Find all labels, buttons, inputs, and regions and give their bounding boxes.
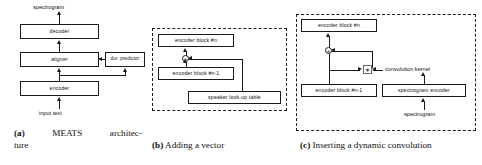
panel-c-edge-specenc-to-kernel: [424, 75, 425, 84]
node-dur-predictor-label: dur. predictor: [111, 57, 140, 62]
panel-b-edge-speaker-to-add: [189, 59, 242, 60]
panel-a-output-label: spectrogram: [33, 5, 64, 11]
panel-c-edge-block-n1-to-conv: [329, 70, 360, 71]
panel-a-edge-decoder-to-output: [59, 14, 60, 24]
node-dur-predictor: dur. predictor: [105, 52, 145, 67]
caption-panel-b-text: Adding a vector: [165, 140, 224, 150]
arrow-up-icon: [123, 68, 127, 72]
caption-panel-a-word3: ture: [14, 140, 28, 150]
arrow-right-icon: [358, 67, 362, 71]
arrow-up-icon: [421, 98, 425, 102]
node-encoder: encoder: [20, 81, 99, 96]
figure-root: spectrogram decoder aligner dur. predict…: [0, 0, 482, 165]
arrow-left-icon: [372, 67, 376, 71]
node-spectrogram-encoder: spectrogram encoder: [382, 84, 466, 97]
panel-a-input-label: input text: [39, 111, 62, 117]
node-encoder-block-n-minus-1: encoder block #n-1: [158, 67, 234, 80]
arrow-up-icon: [57, 40, 61, 44]
caption-panel-a-word2: architec-: [110, 128, 142, 140]
node-decoder: decoder: [20, 24, 99, 39]
arrow-left-icon: [188, 56, 192, 60]
panel-b-edge-add-to-block-n: [186, 51, 187, 56]
panel-b-edge-speaker-riser: [242, 59, 243, 92]
node-encoder-block-n: encoder block #n: [158, 34, 234, 47]
caption-panel-c-tag: (c): [300, 140, 310, 150]
arrow-left-icon: [98, 57, 102, 61]
caption-panel-a-tag: (a): [14, 128, 25, 140]
arrow-up-icon: [183, 48, 187, 52]
node-encoder-block-n-minus-1: encoder block #n-1: [301, 84, 377, 97]
caption-panel-b: (b) Adding a vector: [152, 140, 288, 152]
node-speaker-lookup-table-label: speaker look-up table: [208, 95, 261, 100]
operator-convolution-label: ∗: [365, 67, 370, 73]
node-decoder-label: decoder: [50, 29, 70, 34]
arrow-up-icon: [57, 68, 61, 72]
caption-panel-c: (c) Inserting a dynamic convolution: [300, 140, 480, 152]
caption-panel-b-tag: (b): [152, 140, 163, 150]
arrow-up-icon: [421, 72, 425, 76]
arrow-left-icon: [331, 48, 335, 52]
panel-a-edge-encoder-to-aligner: [59, 71, 60, 81]
node-spectrogram-encoder-label: spectrogram encoder: [398, 88, 450, 93]
node-encoder-block-n-minus-1-label: encoder block #n-1: [316, 88, 363, 93]
arrow-up-icon: [183, 59, 187, 63]
node-encoder-block-n: encoder block #n: [301, 19, 377, 32]
arrow-up-icon: [57, 97, 61, 101]
panel-a-edge-input-to-encoder: [59, 100, 60, 109]
caption-panel-a: (a) MEATS architec- ture: [14, 128, 142, 151]
panel-c-edge-conv-to-add: [332, 51, 372, 52]
operator-convolution-node: ∗: [363, 65, 372, 74]
node-encoder-block-n-minus-1-label: encoder block #n-1: [173, 71, 220, 76]
node-encoder-block-n-label: encoder block #n: [318, 23, 360, 28]
arrow-up-icon: [57, 11, 61, 15]
node-speaker-lookup-table: speaker look-up table: [188, 91, 281, 104]
node-aligner-label: aligner: [51, 57, 68, 62]
panel-c-input-label: spectrogram: [404, 112, 435, 118]
node-aligner: aligner: [20, 52, 99, 67]
arrow-up-icon: [326, 33, 330, 37]
panel-c-edge-add-to-block-n: [329, 36, 330, 48]
operator-add-label: +: [327, 48, 331, 54]
panel-a-edge-branch-to-dur: [125, 71, 126, 76]
panel-a-edge-encoder-branch: [59, 75, 126, 76]
caption-panel-c-text: Inserting a dynamic convolution: [313, 140, 432, 150]
node-encoder-label: encoder: [50, 86, 70, 91]
panel-c-edge-input-to-specenc: [424, 101, 425, 110]
caption-panel-a-word1: MEATS: [52, 128, 82, 140]
node-encoder-block-n-label: encoder block #n: [175, 38, 217, 43]
